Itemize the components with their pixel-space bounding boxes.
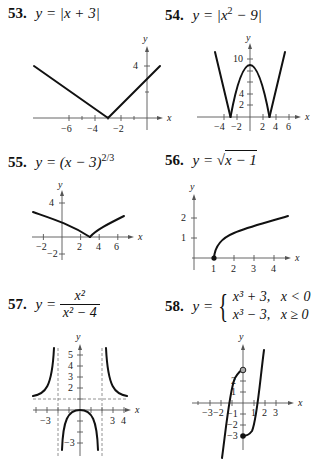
equation-lhs: y = [193, 7, 214, 23]
problem-58-equation: 58. y = { x³ + 3, x < 0 x³ − 3, x ≥ 0 [165, 288, 310, 324]
svg-text:−2: −2 [213, 407, 224, 418]
svg-text:y: y [189, 181, 195, 192]
svg-text:y: y [245, 32, 251, 43]
svg-text:3: 3 [273, 407, 278, 418]
exponent: 2/3 [102, 152, 115, 163]
svg-text:y: y [238, 331, 244, 342]
closed-point [211, 255, 216, 260]
svg-text:4: 4 [121, 415, 126, 426]
svg-text:4: 4 [273, 121, 278, 132]
case-1: x³ + 3, x < 0 [233, 288, 311, 306]
svg-text:x: x [134, 404, 140, 415]
graph-58: x y −3 −2 1 2 3 2 1 −1 −2 −3 [190, 340, 310, 465]
equation-rhs: |x + 3| [60, 5, 100, 21]
closed-point [240, 433, 246, 439]
svg-text:y: y [142, 33, 148, 44]
svg-text:1: 1 [181, 232, 186, 243]
radical-sign: √ [217, 152, 225, 168]
svg-text:−4: −4 [87, 123, 98, 134]
svg-text:x: x [294, 252, 300, 263]
svg-text:1: 1 [211, 263, 216, 274]
svg-text:2: 2 [181, 212, 186, 223]
problem-55-equation: 55. y = (x − 3)2/3 [8, 153, 114, 170]
graph-54: x y −4 −2 2 4 6 2 4 10 [195, 35, 315, 135]
radicand: x − 1 [225, 150, 257, 168]
svg-text:x: x [297, 397, 303, 408]
equation-rhs: |x [217, 7, 228, 23]
problem-56-equation: 56. y = √x − 1 [165, 153, 257, 168]
svg-text:5: 5 [68, 349, 73, 360]
problem-number: 57. [8, 296, 27, 312]
problem-54-equation: 54. y = |x2 − 9| [165, 6, 262, 23]
problem-number: 58. [165, 298, 184, 314]
equation-lhs: y = [193, 298, 214, 314]
svg-text:−3: −3 [40, 415, 51, 426]
graph-56: x y 1 2 3 4 1 2 [190, 180, 310, 275]
equation-lhs: y = [36, 154, 57, 170]
svg-text:−2: −2 [227, 419, 238, 430]
svg-text:4: 4 [133, 60, 138, 71]
problem-number: 56. [165, 152, 184, 168]
svg-text:−3: −3 [64, 437, 75, 448]
numerator: x² [60, 288, 100, 305]
svg-text:−2: −2 [36, 241, 47, 252]
problem-number: 55. [8, 154, 27, 170]
svg-text:3: 3 [110, 415, 115, 426]
svg-text:3: 3 [68, 371, 73, 382]
svg-text:6: 6 [286, 121, 291, 132]
case-2: x³ − 3, x ≥ 0 [233, 306, 311, 324]
svg-text:2: 2 [260, 121, 265, 132]
svg-text:2: 2 [239, 99, 244, 110]
svg-text:6: 6 [114, 241, 119, 252]
svg-text:−3: −3 [227, 430, 238, 441]
svg-text:2: 2 [77, 241, 82, 252]
equation-lhs: y = [193, 152, 214, 168]
svg-text:2: 2 [262, 407, 267, 418]
brace: { [218, 291, 228, 321]
open-point [240, 367, 246, 373]
svg-text:−2: −2 [231, 121, 242, 132]
problem-number: 53. [8, 5, 27, 21]
problem-number: 54. [165, 7, 184, 23]
svg-text:4: 4 [68, 360, 73, 371]
svg-text:x: x [166, 112, 172, 123]
svg-text:4: 4 [96, 241, 101, 252]
svg-text:y: y [75, 331, 81, 342]
piecewise-cases: x³ + 3, x < 0 x³ − 3, x ≥ 0 [233, 288, 311, 324]
svg-text:4: 4 [49, 197, 54, 208]
svg-text:−4: −4 [214, 121, 225, 132]
svg-text:4: 4 [271, 263, 276, 274]
svg-text:4: 4 [239, 88, 244, 99]
graph-57: x y −3 3 4 5 4 3 2 −3 [30, 340, 145, 460]
svg-text:x: x [137, 231, 143, 242]
graph-53: x y −6 −4 −2 4 [25, 30, 155, 135]
equation-lhs: y = [36, 5, 57, 21]
graph-55: x y −2 2 4 6 4 −2 [30, 180, 145, 275]
svg-text:−2: −2 [113, 123, 124, 134]
equation-lhs: y = [36, 296, 57, 312]
denominator: x² − 4 [60, 305, 100, 321]
svg-text:−6: −6 [61, 123, 72, 134]
fraction: x² x² − 4 [60, 288, 100, 321]
svg-text:3: 3 [251, 263, 256, 274]
svg-text:y: y [57, 179, 63, 190]
problem-53-equation: 53. y = |x + 3| [8, 6, 100, 21]
equation-rhs-tail: − 9| [233, 7, 262, 23]
svg-text:x: x [304, 111, 310, 122]
svg-text:2: 2 [68, 382, 73, 393]
svg-text:−2: −2 [47, 248, 58, 259]
equation-rhs: (x − 3) [60, 154, 102, 170]
svg-text:10: 10 [233, 53, 243, 64]
svg-text:2: 2 [231, 263, 236, 274]
svg-text:−3: −3 [202, 407, 213, 418]
problem-57-equation: 57. y = x² x² − 4 [8, 288, 100, 321]
